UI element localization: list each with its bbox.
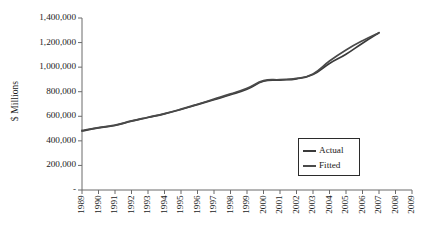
plot-area: [0, 0, 434, 230]
chart-legend: Actual Fitted: [298, 138, 360, 176]
series-line-fitted: [82, 33, 379, 131]
legend-line-icon-fitted: [303, 165, 316, 167]
legend-label-fitted: Fitted: [319, 161, 340, 170]
legend-item-actual: Actual: [303, 143, 356, 158]
legend-item-fitted: Fitted: [303, 158, 356, 173]
x-axis-ticks: [82, 190, 412, 194]
legend-label-actual: Actual: [319, 146, 344, 155]
data-series: [82, 33, 379, 131]
line-chart: $ Millions -200,000400,000600,000800,000…: [0, 0, 434, 230]
y-axis-ticks: [78, 18, 82, 190]
series-line-actual: [82, 33, 379, 131]
legend-line-icon-actual: [303, 150, 316, 152]
